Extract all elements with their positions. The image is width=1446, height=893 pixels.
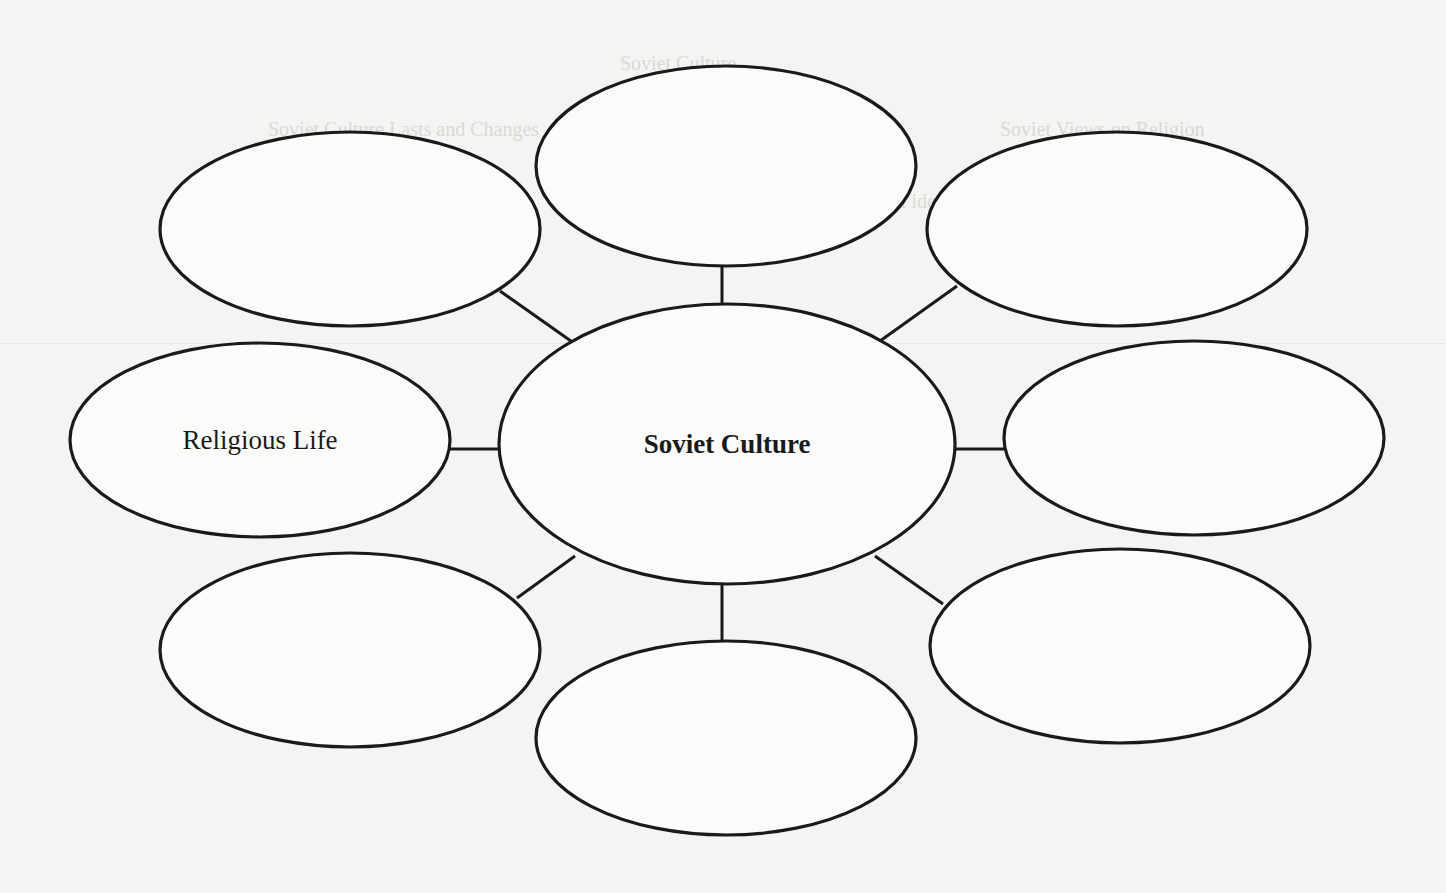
node-label-left: Religious Life xyxy=(182,425,337,456)
node-ellipse-top-right xyxy=(927,132,1307,326)
connector-bottom-left xyxy=(517,556,575,598)
connector-bottom-right xyxy=(875,556,943,604)
node-ellipse-bottom xyxy=(536,641,916,835)
connector-top-right xyxy=(873,286,957,346)
node-ellipse-top-left xyxy=(160,132,540,326)
node-ellipse-bottom-left xyxy=(160,553,540,747)
node-ellipse-right xyxy=(1004,341,1384,535)
node-ellipse-top xyxy=(536,66,916,266)
center-label: Soviet Culture xyxy=(644,429,811,460)
connector-top-left xyxy=(500,291,578,346)
node-ellipse-bottom-right xyxy=(930,549,1310,743)
